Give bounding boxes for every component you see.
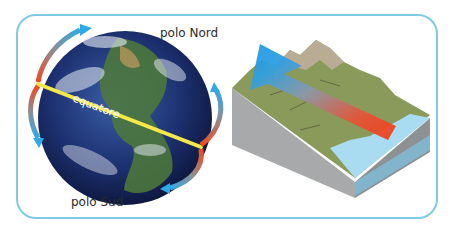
arrow-head-icon <box>80 24 92 36</box>
south-pole-label: polo Sud <box>71 195 123 209</box>
arrow-head-icon <box>210 82 220 92</box>
diagram-illustration: equatore <box>0 0 457 233</box>
north-pole-label: polo Nord <box>160 26 218 40</box>
